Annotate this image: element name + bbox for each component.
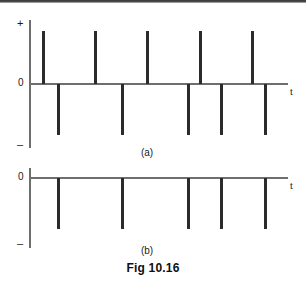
subplot-b-time-axis-label: t bbox=[290, 181, 293, 191]
subplot-b-negative-axis-label: – bbox=[17, 238, 23, 248]
subplot-b: 0 – t (b) bbox=[0, 162, 306, 260]
subplot-a-impulse-negative-5 bbox=[264, 84, 267, 135]
subplot-a-impulse-negative-1 bbox=[57, 84, 60, 135]
subplot-a-time-axis-label: t bbox=[290, 87, 293, 97]
subplot-a-zero-axis-label: 0 bbox=[18, 78, 24, 88]
subplot-a-impulse-positive-3 bbox=[146, 31, 149, 84]
subplot-a-negative-axis-label: – bbox=[17, 139, 23, 149]
subplot-a: + 0 – t (a) bbox=[0, 0, 306, 162]
subplot-a-impulse-negative-3 bbox=[187, 84, 190, 135]
subplot-b-vertical-axis bbox=[29, 168, 31, 248]
subplot-b-zero-axis bbox=[29, 177, 288, 179]
subplot-a-impulse-negative-4 bbox=[220, 84, 223, 135]
subplot-b-impulse-negative-1 bbox=[57, 178, 60, 229]
subplot-a-caption: (a) bbox=[127, 148, 167, 158]
subplot-b-impulse-negative-3 bbox=[187, 178, 190, 229]
subplot-a-impulse-positive-4 bbox=[199, 31, 202, 84]
subplot-b-zero-axis-label: 0 bbox=[18, 172, 24, 182]
subplot-a-impulse-positive-1 bbox=[42, 31, 45, 84]
subplot-a-impulse-negative-2 bbox=[121, 84, 124, 135]
subplot-b-impulse-negative-2 bbox=[121, 178, 124, 229]
subplot-a-positive-axis-label: + bbox=[17, 18, 23, 28]
subplot-a-zero-axis bbox=[29, 83, 288, 85]
subplot-a-impulse-positive-5 bbox=[251, 31, 254, 84]
subplot-b-impulse-negative-5 bbox=[264, 178, 267, 229]
subplot-b-impulse-negative-4 bbox=[220, 178, 223, 229]
figure-caption: Fig 10.16 bbox=[0, 262, 306, 274]
subplot-a-impulse-positive-2 bbox=[94, 31, 97, 84]
subplot-b-caption: (b) bbox=[127, 246, 167, 256]
figure-container: + 0 – t (a) 0 – t (b) Fig 10.16 bbox=[0, 0, 306, 285]
